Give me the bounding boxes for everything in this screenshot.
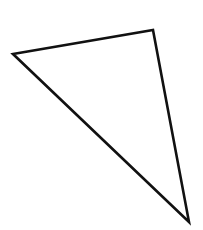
triangle-shape	[13, 30, 189, 222]
diagram-canvas	[0, 0, 203, 230]
